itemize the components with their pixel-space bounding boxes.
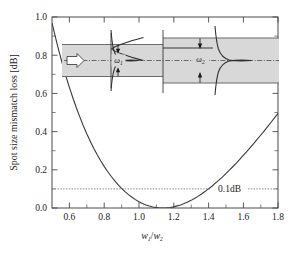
y-tick-label: 0.8 [35, 51, 47, 61]
x-axis-title: w1/w2 [141, 230, 163, 242]
x-tick-label: 1.4 [203, 212, 215, 222]
y-tick-label: 0.4 [35, 127, 47, 137]
x-tick-labels: 0.6 0.8 1.0 1.2 1.4 1.6 1.8 [63, 212, 284, 222]
inset-waveguide-diagram: ω1 ω2 [62, 26, 279, 95]
x-tick-label: 1.0 [133, 212, 145, 222]
y-axis-title: Spot size mismatch loss [dB] [8, 54, 19, 171]
y-tick-labels: 0.0 0.2 0.4 0.6 0.8 1.0 [35, 12, 47, 213]
x-tick-label: 1.6 [237, 212, 249, 222]
y-tick-label: 1.0 [35, 12, 47, 22]
y-tick-label: 0.0 [35, 203, 47, 213]
x-tick-label: 1.2 [168, 212, 180, 222]
figure-container: 0.0 0.2 0.4 0.6 0.8 1.0 [0, 0, 297, 264]
x-tick-label: 0.6 [63, 212, 75, 222]
chart-canvas: 0.0 0.2 0.4 0.6 0.8 1.0 [0, 0, 297, 264]
threshold-annotation-label: 0.1dB [218, 184, 241, 194]
y-tick-label: 0.2 [35, 165, 47, 175]
x-axis-title-sub2: 2 [160, 236, 163, 242]
y-tick-label: 0.6 [35, 89, 47, 99]
svg-text:w1/w2: w1/w2 [141, 230, 163, 242]
x-tick-label: 1.8 [272, 212, 284, 222]
x-tick-label: 0.8 [98, 212, 110, 222]
